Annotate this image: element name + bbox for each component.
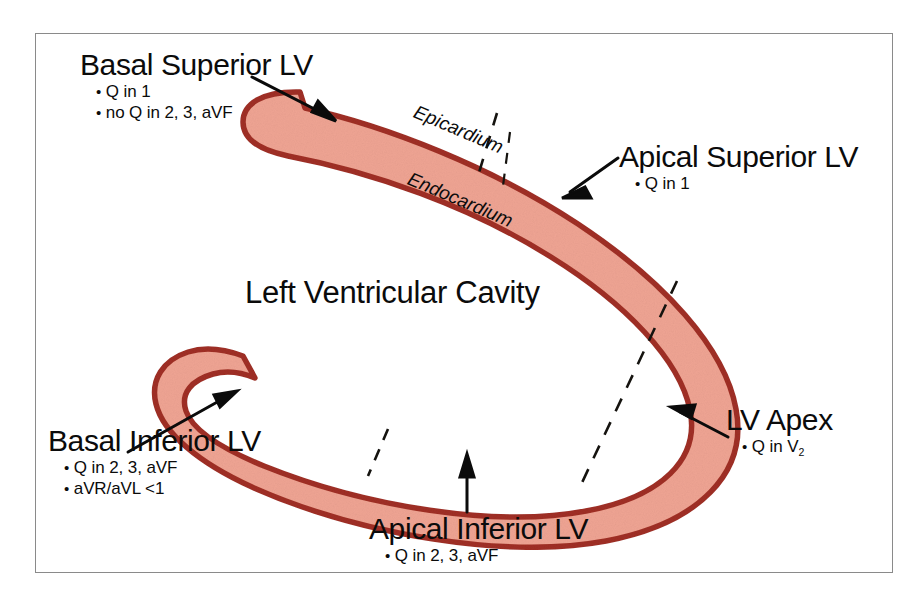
bullet-text: aVR/aVL <1 — [74, 479, 165, 498]
region-title: Apical Inferior LV — [369, 513, 588, 544]
region-title: LV Apex — [726, 404, 833, 435]
bullet-glyph: • — [96, 104, 101, 121]
region-title: Apical Superior LV — [619, 141, 858, 172]
bullet-glyph: • — [64, 459, 69, 476]
bullet-glyph: • — [96, 83, 101, 100]
region-label-basal-inferior-lv: Basal Inferior LV • Q in 2, 3, aVF • aVR… — [48, 425, 261, 498]
region-label-basal-superior-lv: Basal Superior LV • Q in 1 • no Q in 2, … — [80, 49, 313, 122]
region-label-apical-inferior-lv: Apical Inferior LV • Q in 2, 3, aVF — [369, 513, 588, 565]
region-title: Basal Inferior LV — [48, 425, 261, 456]
bullet-glyph: • — [742, 438, 747, 455]
cavity-label: Left Ventricular Cavity — [245, 275, 540, 311]
region-bullet: • Q in 1 — [80, 83, 313, 101]
segment-divider-inferior — [368, 429, 388, 476]
bullet-text-subscript: 2 — [798, 446, 804, 458]
region-bullet: • Q in 2, 3, aVF — [369, 547, 588, 565]
region-bullet: • aVR/aVL <1 — [48, 480, 261, 498]
bullet-text: Q in 1 — [106, 82, 151, 101]
bullet-text-base: Q in V — [752, 437, 799, 456]
region-title: Basal Superior LV — [80, 49, 313, 80]
region-label-lv-apex: LV Apex • Q in V2 — [726, 404, 833, 456]
bullet-text: Q in 2, 3, aVF — [74, 458, 177, 477]
region-bullet: • no Q in 2, 3, aVF — [80, 104, 313, 122]
bullet-text: no Q in 2, 3, aVF — [106, 103, 233, 122]
bullet-glyph: • — [635, 175, 640, 192]
region-bullet: • Q in V2 — [726, 438, 833, 456]
figure-canvas: Epicardium Endocardium Left Ventricular … — [0, 0, 915, 605]
bullet-glyph: • — [64, 480, 69, 497]
bullet-text: Q in 2, 3, aVF — [395, 546, 498, 565]
region-bullet: • Q in 1 — [619, 175, 858, 193]
region-bullet: • Q in 2, 3, aVF — [48, 459, 261, 477]
region-label-apical-superior-lv: Apical Superior LV • Q in 1 — [619, 141, 858, 193]
bullet-glyph: • — [385, 547, 390, 564]
bullet-text: Q in 1 — [645, 174, 690, 193]
